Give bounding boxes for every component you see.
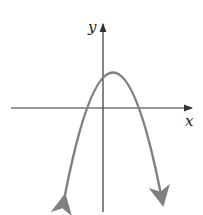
y-axis-label: y: [88, 18, 96, 36]
x-axis-label: x: [185, 112, 193, 130]
parabola-curve: [64, 73, 162, 201]
graph-svg: [0, 0, 203, 215]
